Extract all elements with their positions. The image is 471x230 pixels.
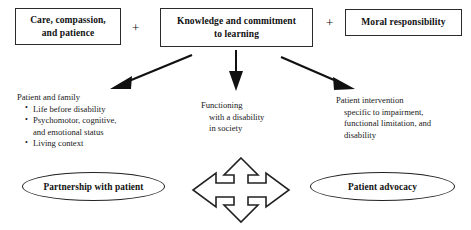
box-care-line-2: and patience — [30, 27, 106, 39]
arrow-down-icon — [229, 50, 243, 91]
ellipse-advocacy-label: Patient advocacy — [348, 182, 417, 192]
patient-family-bullet-list: Life before disability Psychomotor, cogn… — [17, 104, 147, 150]
arrow-down-right-icon — [281, 57, 355, 90]
text-block-functioning-with-disability: Functioning with a disability in society — [201, 100, 279, 135]
intervention-line-4: disability — [336, 130, 468, 142]
arrow-down-left-icon — [110, 55, 192, 89]
functioning-line-2: with a disability — [201, 112, 279, 124]
diagram-canvas: Care, compassion, and patience + Knowled… — [0, 0, 471, 230]
functioning-line-1: Functioning — [201, 100, 279, 112]
box-knowledge-line-1: Knowledge and commitment — [177, 15, 296, 27]
text-block-patient-intervention: Patient intervention specific to impairm… — [336, 95, 468, 141]
box-knowledge-label: Knowledge and commitment to learning — [177, 15, 296, 39]
bullet-text: Living context — [33, 138, 83, 148]
intervention-line-3: functional limitation, and — [336, 118, 468, 130]
intervention-line-2: specific to impairment, — [336, 107, 468, 119]
bullet-text: Life before disability — [33, 104, 106, 114]
plus-operator-1: + — [132, 21, 139, 34]
ellipse-patient-advocacy: Patient advocacy — [310, 172, 455, 201]
plus-operator-2: + — [326, 16, 333, 29]
functioning-line-3: in society — [201, 123, 279, 135]
box-moral-label: Moral responsibility — [361, 16, 445, 28]
four-way-arrow-icon — [190, 156, 292, 224]
box-care-line-1: Care, compassion, — [30, 14, 106, 26]
box-care-label: Care, compassion, and patience — [30, 14, 106, 38]
box-knowledge-line-2: to learning — [177, 28, 296, 40]
intervention-line-1: Patient intervention — [336, 95, 468, 107]
patient-family-heading: Patient and family — [17, 92, 147, 104]
box-care-compassion-patience: Care, compassion, and patience — [15, 8, 121, 45]
list-item: Living context — [25, 138, 147, 150]
text-block-patient-and-family: Patient and family Life before disabilit… — [17, 92, 147, 150]
bullet-text-continuation: and emotional status — [33, 127, 147, 139]
box-knowledge-commitment-learning: Knowledge and commitment to learning — [160, 8, 313, 47]
ellipse-partnership-label: Partnership with patient — [43, 182, 143, 192]
bullet-text: Psychomotor, cognitive, — [33, 115, 116, 125]
list-item: Life before disability — [25, 104, 147, 116]
ellipse-partnership-with-patient: Partnership with patient — [22, 172, 165, 201]
list-item: Psychomotor, cognitive, and emotional st… — [25, 115, 147, 138]
box-moral-responsibility: Moral responsibility — [345, 9, 462, 36]
